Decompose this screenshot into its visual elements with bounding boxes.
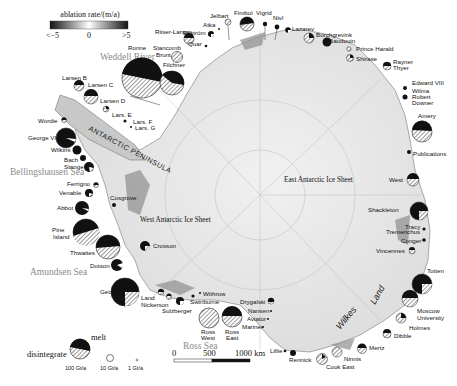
label-lillie: Lillie [270,347,283,354]
label-quar: Quar [188,40,202,47]
pie-larsen-c[interactable] [84,89,98,104]
pie-vincennes[interactable] [409,247,415,254]
colorbar-max: >5 [122,31,131,40]
legend-size-10: 10 Gt/a [100,365,119,371]
pie-thwaites[interactable] [96,235,120,259]
pie-vigrid[interactable] [263,22,267,26]
pie-cosgrove[interactable] [112,203,116,207]
east-sheet-label: East Antarctic Ice Sheet [284,176,353,184]
label-totten: Totten [427,267,444,274]
pie-filchner[interactable] [160,71,184,95]
label-shirase: Shirase [356,55,378,62]
label-withrow: Withrow [203,290,226,297]
pie-publications[interactable] [407,150,411,154]
label-amery: Amery [418,112,437,119]
pie-sulzberger[interactable] [176,297,184,305]
pie-nivl[interactable] [275,25,280,30]
pie-shackleton[interactable] [410,202,428,220]
pie-tracy-tremenchus[interactable] [422,227,425,230]
pie-larsen-b[interactable] [74,80,84,91]
label-nansen: Nansen [248,307,270,314]
pie-rayner-thyer[interactable] [383,62,391,70]
pie-ferrigno[interactable] [94,183,99,188]
label-university: University [417,314,445,321]
label-ekstrom: Ekström [183,29,206,36]
pie-atka[interactable] [218,28,220,30]
pie-borchgrevink[interactable] [304,33,314,43]
pie-abbot[interactable] [75,201,89,215]
pie-lillie[interactable] [284,350,287,353]
pie-quar[interactable] [205,45,208,48]
label-mertz: Mertz [369,344,384,351]
label-crosson: Crosson [153,242,177,249]
pie-dotson[interactable] [111,259,123,271]
pie-wilma-robert-downer[interactable] [403,95,408,100]
label-brunt: Brunt [156,51,171,58]
legend-disintegrate: disintegrate [27,349,67,359]
label-pine-2: Island [53,233,70,240]
label-george: George VI [28,134,56,141]
pie-holmes[interactable] [396,313,406,323]
pie-prince-harald[interactable] [347,47,351,51]
pie-stancomb-brunt[interactable] [172,52,183,63]
pie-larsen-d[interactable] [103,106,109,112]
label-venable: Venable [59,189,82,196]
label-pine-1: Pine [52,226,65,233]
legend-size-1: 1 Gt/a [128,365,144,371]
label-nivl: Nivl [273,14,283,21]
label-larsen-d: Larsen D [100,97,126,104]
pie-bach[interactable] [80,155,86,161]
label-aviator: Aviator [247,315,266,322]
pie-shirase[interactable] [347,55,354,62]
label-lars-g: Lars. G [135,124,155,131]
pie-fimbul[interactable] [240,17,254,31]
pie-lars-f[interactable] [130,126,132,128]
pie-ekstrom[interactable] [208,31,214,37]
pie-ross-west[interactable] [199,308,219,328]
label-vincennes: Vincennes [376,247,405,254]
pie-amery[interactable] [412,120,432,142]
pie-west[interactable] [407,173,419,186]
label-ross-east-2: East [226,334,239,341]
label-vigrid: Vigrid [256,9,272,16]
label-land: Land [141,294,155,301]
label-ferrigno: Ferrigno [67,180,91,187]
pie-aviator[interactable] [267,318,269,320]
pie-ninnis[interactable] [332,347,342,357]
pie-getz[interactable] [111,278,139,306]
pie-ronne[interactable] [122,58,162,105]
pie-stange[interactable] [84,162,94,172]
pie-totten[interactable] [412,274,432,294]
pie-nansen[interactable] [270,310,272,312]
pie-conger[interactable] [422,238,426,242]
pie-wilkins[interactable] [73,146,82,155]
pie-dibble[interactable] [383,329,391,338]
label-lars-e: Lars. E [112,111,132,118]
label-fimbul: Fimbul [234,9,253,16]
pie-moscow-university[interactable] [402,290,418,307]
pie-lars-e[interactable] [124,120,127,123]
label-dotson: Dotson [90,262,110,269]
label-holmes: Holmes [409,324,430,331]
pie-drygalski[interactable] [268,298,274,304]
label-ronne: Ronne [128,44,147,51]
pie-crosson[interactable] [140,241,150,251]
pie-george-vi[interactable] [56,128,76,148]
label-prince-harald: Prince Harald [356,45,394,52]
pie-pine-island[interactable] [73,219,100,246]
pie-ross-east[interactable] [222,306,242,327]
label-sulzberger: Sulzberger [162,307,192,314]
label-publications: Publications [413,150,446,157]
pie-mertz[interactable] [358,344,367,354]
label-dibble: Dibble [394,332,412,339]
pie-withrow[interactable] [199,292,201,294]
pie-jelbart[interactable] [225,19,231,25]
label-abbot: Abbot [57,204,73,211]
pie-edward[interactable] [403,86,407,90]
pie-land[interactable] [158,289,164,295]
pie-wordie[interactable] [62,118,67,123]
pie-nickerson[interactable] [167,294,172,300]
legend: melt disintegrate 100 Gt/a 10 Gt/a 1 Gt/… [27,332,144,371]
pie-venable[interactable] [85,189,93,197]
label-larsen-b: Larsen B [62,74,87,81]
